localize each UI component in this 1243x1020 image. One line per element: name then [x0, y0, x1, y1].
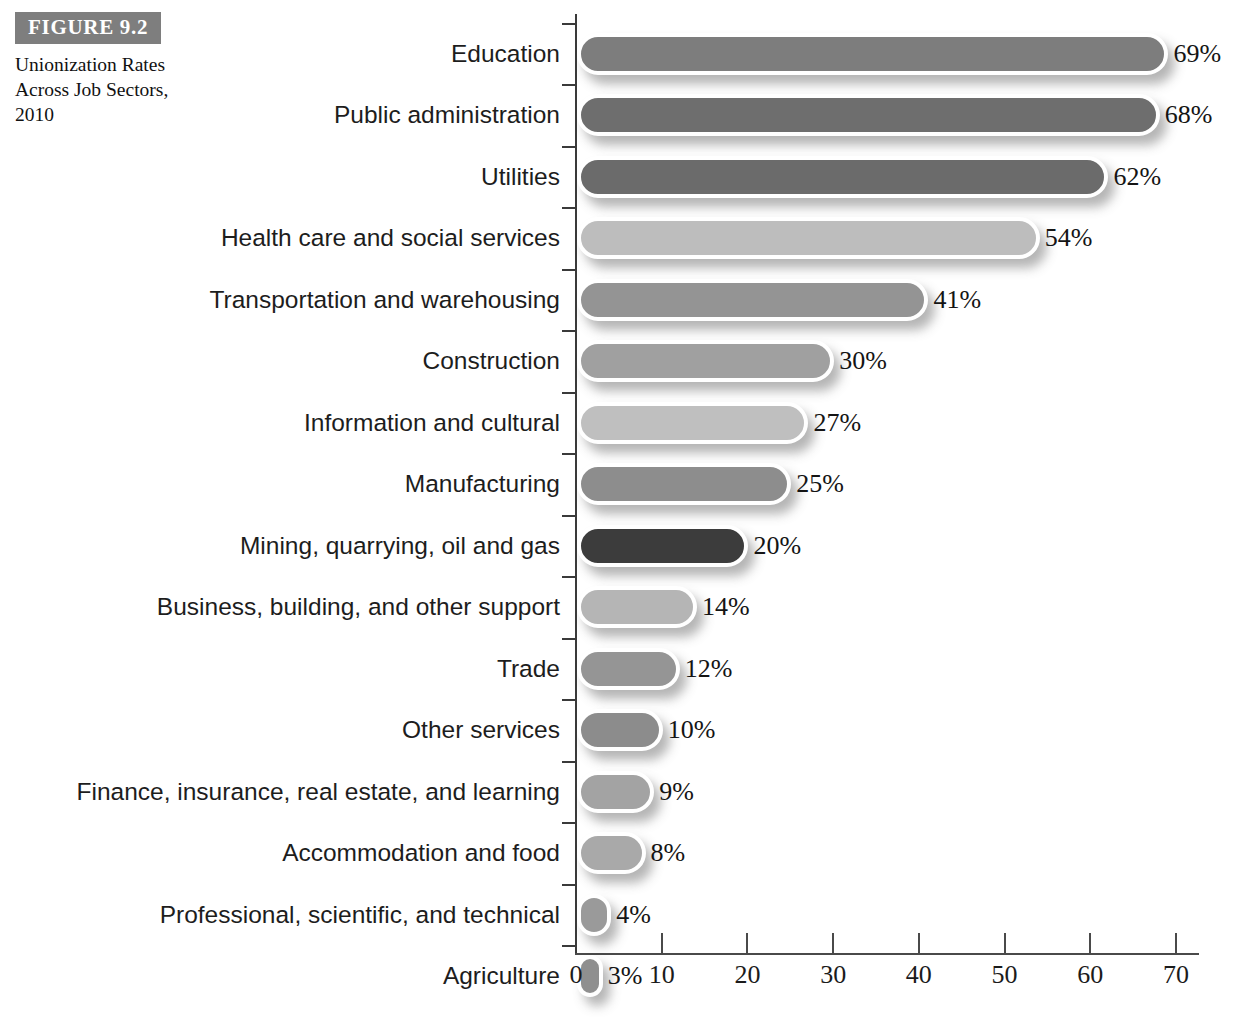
- bar: 62%: [577, 156, 1108, 198]
- bar-value-label: 12%: [685, 654, 733, 684]
- y-axis-tick: [562, 207, 575, 209]
- category-label: Public administration: [334, 103, 560, 128]
- bar: 41%: [577, 279, 928, 321]
- y-axis-tick: [562, 269, 575, 271]
- bar: 14%: [577, 586, 697, 628]
- x-axis-tick: [918, 933, 920, 953]
- y-axis-tick: [562, 23, 575, 25]
- bar: 69%: [577, 33, 1168, 75]
- category-label: Transportation and warehousing: [210, 288, 560, 313]
- bar: 8%: [577, 832, 646, 874]
- y-axis-tick: [562, 761, 575, 763]
- category-label: Education: [451, 42, 560, 67]
- category-label: Health care and social services: [221, 226, 560, 251]
- bar-container: 10%: [577, 709, 663, 751]
- bar: 30%: [577, 340, 834, 382]
- x-axis-tick-label: 70: [1163, 960, 1189, 990]
- category-label: Trade: [497, 657, 560, 682]
- category-label: Utilities: [481, 165, 560, 190]
- bar: 20%: [577, 525, 748, 567]
- y-axis-tick: [562, 576, 575, 578]
- bar-container: 12%: [577, 648, 680, 690]
- x-axis-tick: [1175, 933, 1177, 953]
- bar-value-label: 4%: [616, 900, 651, 930]
- bar: 27%: [577, 402, 808, 444]
- y-axis-tick: [562, 638, 575, 640]
- bar-container: 69%: [577, 33, 1168, 75]
- category-label: Finance, insurance, real estate, and lea…: [77, 780, 561, 805]
- bar: 9%: [577, 771, 654, 813]
- y-axis-tick: [562, 330, 575, 332]
- bar-value-label: 8%: [651, 838, 686, 868]
- bar-container: 27%: [577, 402, 808, 444]
- category-label: Information and cultural: [304, 411, 560, 436]
- x-axis-tick-label: 0: [570, 960, 583, 990]
- bar-value-label: 41%: [933, 285, 981, 315]
- category-label: Other services: [402, 718, 560, 743]
- y-axis-tick: [562, 884, 575, 886]
- x-axis-tick-label: 10: [649, 960, 675, 990]
- bar-container: 14%: [577, 586, 697, 628]
- category-label: Manufacturing: [405, 472, 560, 497]
- bar-container: 41%: [577, 279, 928, 321]
- x-axis-tick: [1089, 933, 1091, 953]
- bar-value-label: 69%: [1173, 39, 1221, 69]
- y-axis-tick: [562, 699, 575, 701]
- bar-value-label: 10%: [668, 715, 716, 745]
- bar: 25%: [577, 463, 791, 505]
- x-axis-tick-label: 40: [906, 960, 932, 990]
- bar-container: 54%: [577, 217, 1040, 259]
- category-label: Business, building, and other support: [157, 595, 560, 620]
- bar: 10%: [577, 709, 663, 751]
- bar-value-label: 27%: [813, 408, 861, 438]
- bar-value-label: 25%: [796, 469, 844, 499]
- y-axis-tick: [562, 453, 575, 455]
- y-axis-tick: [562, 822, 575, 824]
- x-axis-tick-label: 50: [992, 960, 1018, 990]
- bar-value-label: 20%: [753, 531, 801, 561]
- bar: 68%: [577, 94, 1160, 136]
- bar-container: 9%: [577, 771, 654, 813]
- bar: 12%: [577, 648, 680, 690]
- x-axis-tick: [746, 933, 748, 953]
- bar-container: 30%: [577, 340, 834, 382]
- x-axis-tick-label: 30: [820, 960, 846, 990]
- x-axis-line: [575, 953, 1199, 955]
- bar-value-label: 54%: [1045, 223, 1093, 253]
- category-label: Mining, quarrying, oil and gas: [240, 534, 560, 559]
- bar-value-label: 62%: [1113, 162, 1161, 192]
- category-label: Professional, scientific, and technical: [160, 903, 560, 928]
- bar-container: 25%: [577, 463, 791, 505]
- bar-container: 20%: [577, 525, 748, 567]
- bar-value-label: 3%: [608, 961, 643, 991]
- y-axis-tick: [562, 945, 575, 947]
- bar: 4%: [577, 894, 611, 936]
- bar-container: 8%: [577, 832, 646, 874]
- y-axis-tick: [562, 515, 575, 517]
- x-axis-tick-label: 60: [1077, 960, 1103, 990]
- x-axis-tick: [1004, 933, 1006, 953]
- y-axis-tick: [562, 84, 575, 86]
- bar-chart: Education69%Public administration68%Util…: [0, 0, 1243, 1020]
- category-label: Agriculture: [443, 964, 560, 989]
- bar-value-label: 14%: [702, 592, 750, 622]
- x-axis-tick: [661, 933, 663, 953]
- category-label: Construction: [422, 349, 560, 374]
- bar-container: 68%: [577, 94, 1160, 136]
- bar: 54%: [577, 217, 1040, 259]
- bar-container: 4%: [577, 894, 611, 936]
- bar-value-label: 9%: [659, 777, 694, 807]
- x-axis-tick-label: 20: [734, 960, 760, 990]
- bar-value-label: 68%: [1165, 100, 1213, 130]
- x-axis-tick: [832, 933, 834, 953]
- bar-container: 62%: [577, 156, 1108, 198]
- bar-value-label: 30%: [839, 346, 887, 376]
- y-axis-tick: [562, 146, 575, 148]
- category-label: Accommodation and food: [282, 841, 560, 866]
- y-axis-tick: [562, 392, 575, 394]
